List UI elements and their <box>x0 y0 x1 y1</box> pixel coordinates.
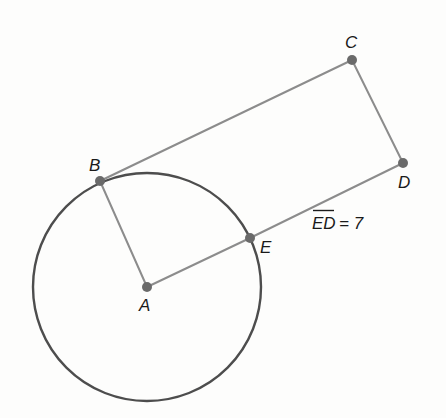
point-C <box>347 55 357 65</box>
segment-AB <box>100 181 147 287</box>
segment-AE <box>147 238 250 287</box>
point-B <box>95 176 105 186</box>
measurement-value: = 7 <box>339 214 364 233</box>
diagram-canvas: ABCDE ED = 7 <box>0 0 446 418</box>
label-A: A <box>138 296 150 315</box>
label-C: C <box>345 33 358 52</box>
point-D <box>398 158 408 168</box>
point-E <box>245 233 255 243</box>
label-B: B <box>89 156 100 175</box>
geometry-diagram: ABCDE ED = 7 <box>0 0 446 418</box>
point-A <box>142 282 152 292</box>
segment-BC <box>100 60 352 181</box>
label-E: E <box>260 238 272 257</box>
measurement-label-ED: ED = 7 <box>312 211 364 234</box>
label-D: D <box>398 173 410 192</box>
segment-CD <box>352 60 403 163</box>
measurement-segment-name: ED <box>312 214 336 233</box>
